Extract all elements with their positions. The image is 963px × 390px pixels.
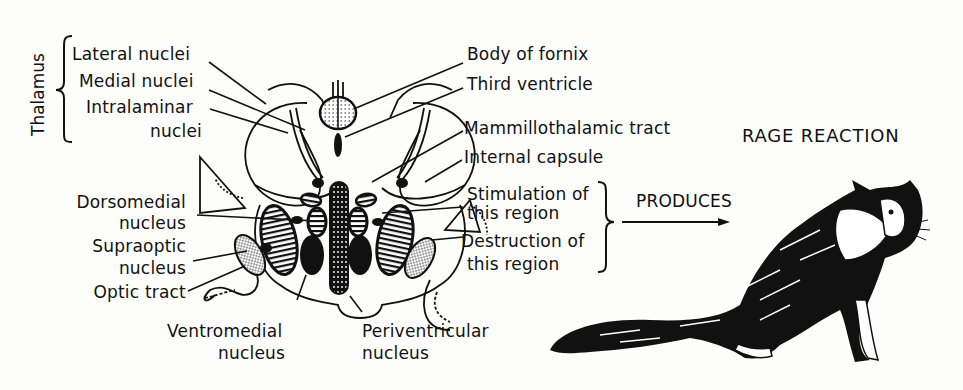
thalamus-brace: [56, 36, 72, 142]
label-supraoptic-line2: nucleus: [64, 258, 186, 278]
label-lateral-nuclei: Lateral nuclei: [72, 44, 190, 64]
label-body-of-fornix: Body of fornix: [467, 44, 589, 64]
label-periventricular-line1: Periventricular: [362, 321, 489, 341]
label-stimulation-line1: Stimulation of: [467, 184, 589, 204]
label-intralaminar-line1: Intralaminar: [86, 97, 193, 117]
produces-label: PRODUCES: [636, 191, 732, 211]
label-ventromedial-line2: nucleus: [218, 343, 285, 363]
label-mammillothalamic-tract: Mammillothalamic tract: [464, 118, 670, 138]
thalamus-group-label: Thalamus: [28, 53, 48, 136]
label-optic-tract: Optic tract: [64, 282, 186, 302]
label-supraoptic-line1: Supraoptic: [64, 236, 186, 256]
label-intralaminar-line2: nuclei: [150, 121, 202, 141]
result-brace: [598, 182, 614, 272]
label-destruction-line1: Destruction of: [461, 231, 584, 251]
label-dorsomedial-line1: Dorsomedial: [64, 192, 186, 212]
label-dorsomedial-line2: nucleus: [64, 213, 186, 233]
label-internal-capsule: Internal capsule: [464, 147, 604, 167]
figure-title: RAGE REACTION: [742, 126, 900, 146]
figure-canvas: Thalamus Lateral nuclei Medial nuclei In…: [0, 0, 963, 390]
label-ventromedial-line1: Ventromedial: [167, 321, 282, 341]
label-third-ventricle: Third ventricle: [467, 74, 593, 94]
label-stimulation-line2: this region: [467, 203, 559, 223]
label-destruction-line2: this region: [467, 254, 559, 274]
label-medial-nuclei: Medial nuclei: [79, 71, 194, 91]
label-periventricular-line2: nucleus: [362, 343, 429, 363]
